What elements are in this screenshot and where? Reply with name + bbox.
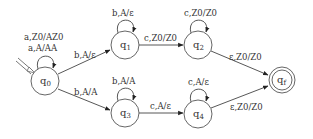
- state-qf-accepting: qf: [269, 67, 295, 93]
- label-q1-loop: b,A/ε: [112, 8, 134, 18]
- label-q2-qf: ε,Z0/Z0: [229, 52, 262, 62]
- state-q2: q2: [184, 31, 212, 59]
- state-q0: q0: [31, 67, 59, 95]
- label-q0-q1: b,A/ε: [74, 50, 96, 60]
- label-q4-qf: ε,Z0/Z0: [230, 102, 263, 112]
- label-q0-loop-2: a,A/AA: [28, 43, 58, 53]
- initial-state-arrow-icon: [16, 58, 35, 74]
- label-q0-q3: b,A/A: [74, 87, 98, 97]
- state-q1: q1: [111, 31, 139, 59]
- label-q3-q4: c,A/ε: [150, 101, 171, 111]
- label-q3-loop: b,A/A: [112, 76, 136, 86]
- state-q3: q3: [111, 99, 139, 127]
- label-q0-loop-1: a,Z0/AZ0: [24, 32, 63, 42]
- state-q4: q4: [184, 100, 212, 128]
- label-q2-loop: c,Z0/Z0: [184, 8, 217, 18]
- label-q4-loop: c,A/ε: [188, 77, 209, 87]
- label-q1-q2: c,Z0/Z0: [144, 33, 177, 43]
- pda-state-diagram: q0 q1 q2 q3 q4 qf a,Z0/AZ0 a,A/AA b,A/ε …: [0, 0, 313, 139]
